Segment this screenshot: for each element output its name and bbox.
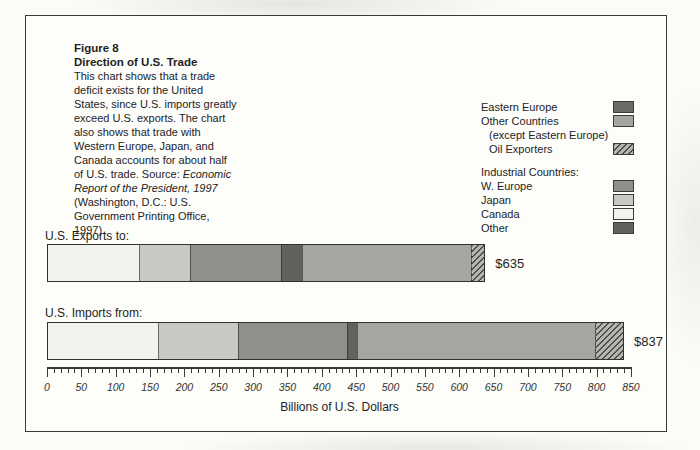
- axis-tick: [143, 368, 144, 373]
- exports-total: $635: [495, 256, 524, 271]
- figure-label: Figure 8: [74, 41, 334, 55]
- legend-group: Eastern EuropeOther Countries(except Eas…: [481, 100, 634, 156]
- axis-tick: [377, 368, 378, 373]
- axis-tick: [136, 368, 137, 373]
- axis-tick: [411, 368, 412, 373]
- axis-tick: [54, 368, 55, 373]
- legend-item-label: Other: [481, 222, 509, 234]
- axis-tick: [81, 368, 82, 377]
- axis-tick: [631, 368, 632, 377]
- axis-tick: [370, 368, 371, 373]
- segment-japan: [139, 245, 189, 281]
- legend-item-label: Eastern Europe: [481, 101, 557, 113]
- axis-tick: [47, 368, 48, 377]
- segment-other-countries: [357, 323, 594, 359]
- axis-tick: [274, 368, 275, 373]
- legend: Eastern EuropeOther Countries(except Eas…: [481, 100, 634, 235]
- axis-tick-label: 350: [279, 381, 297, 393]
- axis-tick: [590, 368, 591, 373]
- axis-tick: [178, 368, 179, 373]
- description-text: Western Europe, Japan, and: [74, 140, 214, 152]
- axis-tick: [287, 368, 288, 377]
- axis-tick: [603, 368, 604, 373]
- axis-tick: [301, 368, 302, 373]
- axis-tick: [336, 368, 337, 373]
- axis-tick: [308, 368, 309, 373]
- axis-tick: [171, 368, 172, 373]
- axis-tick-label: 550: [416, 381, 434, 393]
- axis-tick: [404, 368, 405, 373]
- axis-tick: [397, 368, 398, 373]
- exports-bar-label: U.S. Exports to:: [45, 229, 129, 243]
- legend-item: Oil Exporters: [481, 142, 634, 156]
- legend-item: Other Countries: [481, 114, 634, 128]
- axis-tick: [267, 368, 268, 373]
- figure-description: This chart shows that a tradedeficit exi…: [74, 69, 334, 237]
- legend-group-header: Industrial Countries:: [481, 165, 634, 179]
- description-line: (Washington, D.C.: U.S.: [74, 195, 334, 209]
- axis-tick: [418, 368, 419, 373]
- axis-tick: [95, 368, 96, 373]
- segment-japan: [158, 323, 238, 359]
- axis-tick: [514, 368, 515, 373]
- axis-tick: [480, 368, 481, 373]
- description-text: exceed U.S. exports. The chart: [74, 112, 225, 124]
- axis-tick: [583, 368, 584, 373]
- legend-item: Eastern Europe: [481, 100, 634, 114]
- axis-tick-label: 400: [313, 381, 331, 393]
- axis-tick: [487, 368, 488, 373]
- axis-tick: [356, 368, 357, 377]
- axis-tick-label: 250: [210, 381, 228, 393]
- w-europe-swatch: [613, 180, 634, 192]
- legend-item-label: Canada: [481, 208, 520, 220]
- axis-tick: [624, 368, 625, 373]
- axis-tick: [102, 368, 103, 373]
- axis-tick: [473, 368, 474, 373]
- axis-tick: [459, 368, 460, 377]
- description-line: This chart shows that a trade: [74, 69, 334, 83]
- segment-other-countries: [302, 245, 471, 281]
- axis-tick: [88, 368, 89, 373]
- description-line: deficit exists for the United: [74, 83, 334, 97]
- axis-tick: [452, 368, 453, 373]
- axis-tick: [281, 368, 282, 373]
- axis-tick: [260, 368, 261, 373]
- axis-tick-label: 450: [347, 381, 365, 393]
- exports-bar: [47, 244, 485, 282]
- legend-item: Other: [481, 221, 634, 235]
- legend-item-label: Japan: [481, 194, 511, 206]
- imports-bar-label: U.S. Imports from:: [45, 306, 142, 320]
- axis-tick: [329, 368, 330, 373]
- axis-tick: [212, 368, 213, 373]
- axis-tick: [597, 368, 598, 377]
- segment-w-europe: [238, 323, 348, 359]
- description-line: exceed U.S. exports. The chart: [74, 111, 334, 125]
- figure-frame: Figure 8 Direction of U.S. Trade This ch…: [25, 15, 667, 432]
- axis-tick-label: 100: [107, 381, 125, 393]
- description-text: of U.S. trade. Source:: [74, 168, 183, 180]
- description-text: also shows that trade with: [74, 126, 201, 138]
- segment-canada: [48, 323, 158, 359]
- description-line: Report of the President, 1997: [74, 181, 334, 195]
- axis-tick: [500, 368, 501, 373]
- axis-tick: [439, 368, 440, 373]
- segment-canada: [48, 245, 139, 281]
- axis-tick-label: 300: [244, 381, 262, 393]
- axis-title: Billions of U.S. Dollars: [47, 400, 632, 414]
- axis-tick: [384, 368, 385, 373]
- imports-bar: [47, 322, 624, 360]
- description-text: Report of the President, 1997: [74, 182, 218, 194]
- axis-tick: [610, 368, 611, 373]
- page: Figure 8 Direction of U.S. Trade This ch…: [0, 0, 700, 450]
- axis-tick: [232, 368, 233, 373]
- axis-tick: [109, 368, 110, 373]
- description-line: Western Europe, Japan, and: [74, 139, 334, 153]
- segment-oil-exporters: [471, 245, 485, 281]
- axis-tick-label: 850: [622, 381, 640, 393]
- description-line: Government Printing Office,: [74, 209, 334, 223]
- legend-item-label: Other Countries: [481, 115, 559, 127]
- legend-item: Japan: [481, 193, 634, 207]
- axis-tick-label: 500: [382, 381, 400, 393]
- axis-tick: [535, 368, 536, 373]
- description-text: Canada accounts for about half: [74, 154, 227, 166]
